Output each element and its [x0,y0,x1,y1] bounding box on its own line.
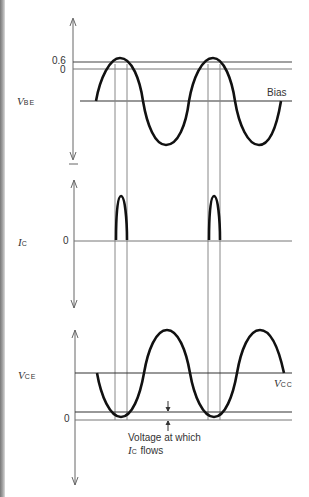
vcc-label: VCC [274,378,293,389]
waveform-diagram [0,0,309,497]
vce-panel [72,330,292,485]
note-arrow-up-icon [166,421,170,425]
note-line-2: IC flows [128,445,163,456]
conduction-window-lines [115,64,220,420]
vce-label-main: V [18,369,25,381]
ic-panel [71,180,292,308]
vce-axis-label: VCE [18,370,36,381]
vbe-tick-zero: 0 [60,65,66,75]
note-line-1: Voltage at which [128,433,201,443]
vcc-label-sub: CC [281,381,293,388]
ic-tick-zero: 0 [63,236,69,246]
vbe-label-sub: BE [24,99,35,106]
note-flows-text: flows [138,445,164,456]
note-arrow-down-icon [166,407,170,411]
vbe-panel [69,18,292,164]
bias-label: Bias [267,88,286,98]
vce-label-sub: CE [25,373,37,380]
vce-tick-zero: 0 [64,414,70,424]
vbe-axis-label: VBE [17,96,35,107]
ic-pulse-1 [116,196,127,240]
vcc-label-main: V [274,377,281,389]
vbe-label-main: V [17,95,24,107]
ic-label-sub: C [22,240,28,247]
ic-pulse-2 [209,196,220,240]
ic-axis-label: IC [18,237,28,248]
